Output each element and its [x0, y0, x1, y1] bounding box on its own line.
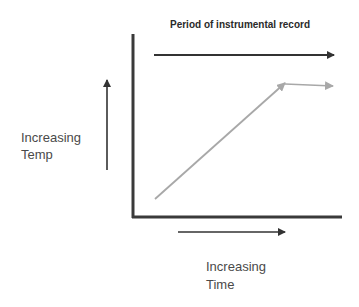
diagram-title: Period of instrumental record — [170, 19, 310, 30]
x-axis-label-line1: Increasing — [206, 259, 266, 275]
y-axis-label-line1: Increasing — [21, 130, 81, 146]
x-axis-label-line2: Time — [206, 277, 234, 293]
temperature-plateau-line — [285, 84, 333, 86]
y-axis-label-line2: Temp — [21, 147, 53, 163]
diagram-canvas — [0, 0, 359, 307]
temperature-rise-line — [155, 83, 285, 199]
